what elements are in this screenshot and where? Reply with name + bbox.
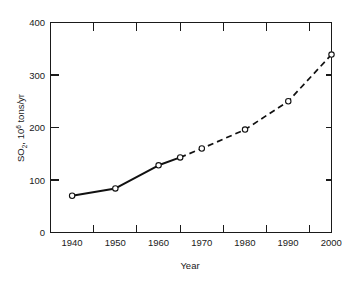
data-point-marker <box>69 193 74 198</box>
svg-text:SO2, 106 tons/yr: SO2, 106 tons/yr <box>15 94 28 162</box>
x-tick-label-1970: 1970 <box>191 237 212 248</box>
data-point-marker <box>286 99 291 104</box>
y-tick-label-0: 0 <box>40 227 45 238</box>
chart-plot-area: 0 100 200 300 400 1940 1950 1960 1970 19… <box>0 0 350 283</box>
x-tick-label-2000: 2000 <box>321 237 342 248</box>
axis-frame <box>51 23 332 233</box>
series-line-projected <box>180 55 331 158</box>
data-point-marker <box>113 186 118 191</box>
y-axis-title-middle: , 10 <box>15 129 26 145</box>
y-axis-right-ticks <box>326 75 332 180</box>
data-point-marker <box>329 52 334 57</box>
x-axis-ticks <box>51 225 310 233</box>
series-line-historical <box>72 157 180 195</box>
plot-border <box>51 23 332 233</box>
x-tick-label-1990: 1990 <box>278 237 299 248</box>
x-tick-label-1950: 1950 <box>105 237 126 248</box>
y-tick-label-300: 300 <box>29 70 45 81</box>
data-point-marker <box>199 146 204 151</box>
x-axis-title: Year <box>180 260 199 271</box>
x-tick-label-1980: 1980 <box>234 237 255 248</box>
y-tick-label-400: 400 <box>29 17 45 28</box>
chart-figure: 0 100 200 300 400 1940 1950 1960 1970 19… <box>0 0 350 283</box>
y-tick-labels: 0 100 200 300 400 <box>29 17 45 238</box>
y-axis-title-tail: tons/yr <box>15 94 26 125</box>
x-tick-label-1940: 1940 <box>62 237 83 248</box>
y-tick-label-100: 100 <box>29 175 45 186</box>
data-point-marker <box>156 163 161 168</box>
series-markers <box>69 52 334 199</box>
y-axis-ticks <box>51 23 59 233</box>
y-tick-label-200: 200 <box>29 122 45 133</box>
y-axis-title: SO2, 106 tons/yr <box>15 94 28 162</box>
x-axis-top-ticks <box>94 23 310 31</box>
y-axis-title-base: SO <box>15 148 26 162</box>
x-tick-label-1960: 1960 <box>148 237 169 248</box>
data-point-marker <box>177 155 182 160</box>
x-tick-labels: 1940 1950 1960 1970 1980 1990 2000 <box>62 237 342 248</box>
data-point-marker <box>242 127 247 132</box>
